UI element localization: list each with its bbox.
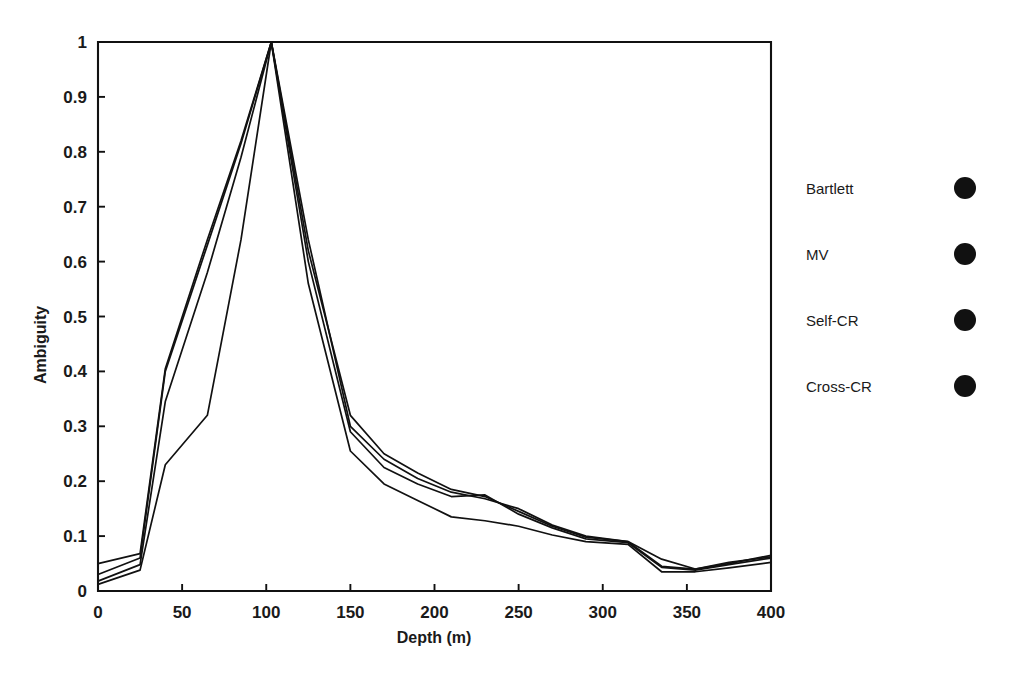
y-tick-label-0.2: 0.2: [63, 472, 87, 491]
legend-label-cross-cr: Cross-CR: [806, 378, 872, 395]
x-tick-label-350: 350: [673, 603, 701, 622]
x-axis-title: Depth (m): [397, 629, 472, 646]
y-tick-label-0.6: 0.6: [63, 253, 87, 272]
legend-label-mv: MV: [806, 246, 829, 263]
y-tick-label-0.1: 0.1: [63, 527, 87, 546]
x-tick-label-400: 400: [757, 603, 785, 622]
y-tick-label-0.7: 0.7: [63, 198, 87, 217]
chart-figure: 050100150200250300350400 00.10.20.30.40.…: [0, 0, 1012, 678]
x-tick-label-300: 300: [589, 603, 617, 622]
data-series-group: [98, 42, 771, 584]
ambiguity-depth-line-chart: 050100150200250300350400 00.10.20.30.40.…: [0, 0, 1012, 678]
y-axis-tick-labels: 00.10.20.30.40.50.60.70.80.91: [63, 33, 87, 601]
y-tick-label-0.3: 0.3: [63, 417, 87, 436]
chart-legend: BartlettMVSelf-CRCross-CR: [806, 177, 976, 397]
y-tick-label-1: 1: [78, 33, 87, 52]
x-tick-label-50: 50: [173, 603, 192, 622]
legend-marker-bartlett: [954, 177, 976, 199]
y-tick-label-0: 0: [78, 582, 87, 601]
series-line-self-cr: [98, 42, 771, 581]
x-tick-label-100: 100: [252, 603, 280, 622]
y-tick-label-0.8: 0.8: [63, 143, 87, 162]
legend-label-self-cr: Self-CR: [806, 312, 859, 329]
legend-label-bartlett: Bartlett: [806, 180, 854, 197]
series-line-cross-cr: [98, 42, 771, 584]
legend-marker-mv: [954, 243, 976, 265]
y-tick-label-0.9: 0.9: [63, 88, 87, 107]
x-tick-label-150: 150: [336, 603, 364, 622]
y-tick-label-0.4: 0.4: [63, 362, 87, 381]
x-tick-label-250: 250: [504, 603, 532, 622]
legend-marker-cross-cr: [954, 375, 976, 397]
legend-marker-self-cr: [954, 309, 976, 331]
y-axis-title: Ambiguity: [32, 306, 49, 384]
series-line-mv: [98, 42, 771, 575]
y-tick-label-0.5: 0.5: [63, 308, 87, 327]
x-tick-label-200: 200: [420, 603, 448, 622]
x-axis-tick-labels: 050100150200250300350400: [93, 603, 785, 622]
x-tick-label-0: 0: [93, 603, 102, 622]
